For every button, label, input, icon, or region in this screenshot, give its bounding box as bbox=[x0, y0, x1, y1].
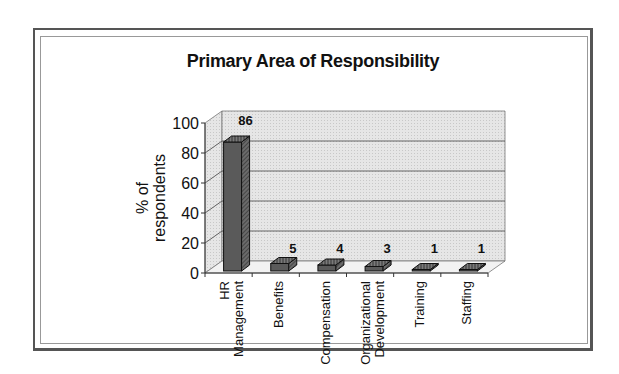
y-axis-title-line: respondents bbox=[151, 154, 168, 242]
data-label: 3 bbox=[383, 241, 390, 256]
x-category-label-line: Compensation bbox=[318, 281, 333, 365]
y-axis-title-line: % of bbox=[134, 181, 151, 214]
x-category-label-line: Management bbox=[231, 281, 246, 357]
y-tick-label: 80 bbox=[181, 145, 199, 162]
x-category-label: Benefits bbox=[271, 281, 286, 328]
bar-side bbox=[242, 136, 250, 271]
back-wall bbox=[222, 111, 505, 261]
data-label: 1 bbox=[478, 241, 485, 256]
y-axis-title-group: % ofrespondents bbox=[134, 154, 168, 242]
x-category-label-line: Development bbox=[372, 281, 387, 358]
bar-front bbox=[365, 267, 383, 272]
y-tick-label: 0 bbox=[190, 265, 199, 282]
x-category-label: Compensation bbox=[318, 281, 333, 365]
x-category-label: Staffing bbox=[459, 281, 474, 325]
x-category-label-line: Benefits bbox=[271, 281, 286, 328]
y-tick-label: 60 bbox=[181, 175, 199, 192]
y-tick-label: 20 bbox=[181, 235, 199, 252]
bar-front bbox=[224, 142, 242, 271]
x-category-label: Training bbox=[412, 281, 427, 327]
data-label: 1 bbox=[431, 241, 438, 256]
bar-front bbox=[318, 265, 336, 271]
bar-front bbox=[271, 264, 289, 272]
data-label: 4 bbox=[336, 241, 344, 256]
x-category-label-line: HR bbox=[217, 281, 232, 300]
y-tick-label: 100 bbox=[172, 115, 199, 132]
data-label: 86 bbox=[238, 113, 252, 128]
x-category-label-line: Organizational bbox=[358, 281, 373, 365]
chart-title: Primary Area of Responsibility bbox=[187, 51, 440, 71]
bar bbox=[224, 136, 250, 271]
side-wall bbox=[205, 111, 222, 273]
data-label: 5 bbox=[289, 241, 296, 256]
y-axis-title: % ofrespondents bbox=[134, 154, 168, 242]
x-category-label: OrganizationalDevelopment bbox=[358, 281, 387, 365]
x-category-label: HRManagement bbox=[217, 281, 246, 357]
x-category-label-line: Staffing bbox=[459, 281, 474, 325]
y-tick-label: 40 bbox=[181, 205, 199, 222]
chart-svg: Primary Area of Responsibility 020406080… bbox=[0, 0, 619, 374]
x-category-label-line: Training bbox=[412, 281, 427, 327]
